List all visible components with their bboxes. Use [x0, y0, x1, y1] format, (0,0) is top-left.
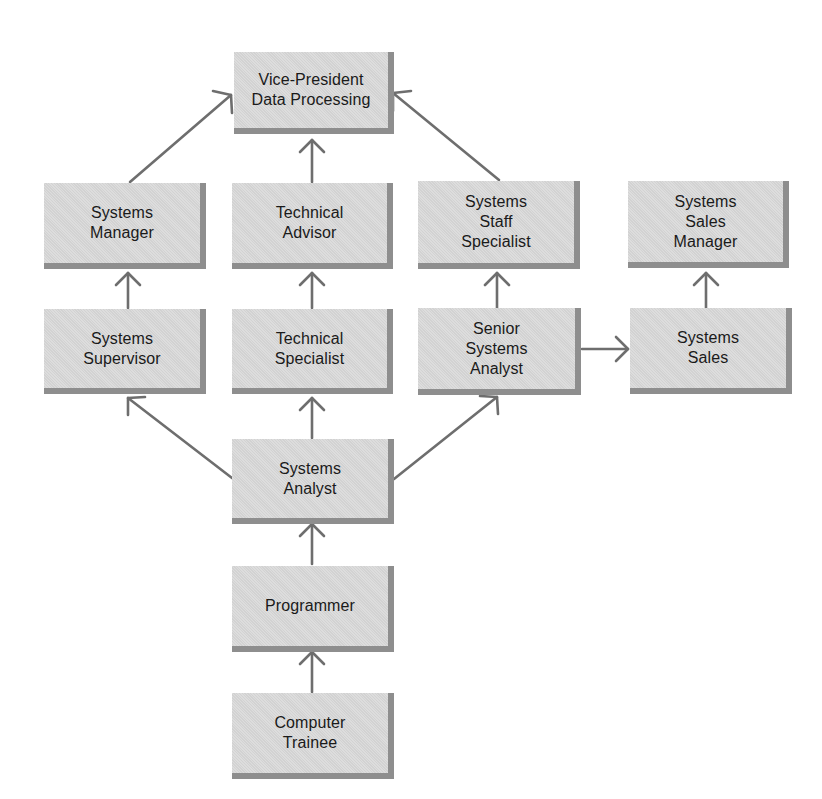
node-vice-president-data-processing: Vice-President Data Processing: [234, 52, 394, 134]
arrow-senior-analyst-to-systems-sales: [582, 337, 628, 361]
node-label: Senior Systems Analyst: [465, 319, 527, 379]
arrow-staff-specialist-to-vp: [393, 91, 499, 180]
node-systems-sales-manager: Systems Sales Manager: [628, 181, 789, 268]
node-computer-trainee: Computer Trainee: [232, 693, 394, 779]
arrow-systems-supervisor-to-systems-manager: [116, 273, 140, 308]
node-label: Systems Analyst: [279, 459, 341, 499]
arrow-technical-specialist-to-technical-advisor: [300, 273, 324, 308]
node-label: Computer Trainee: [274, 713, 345, 753]
node-label: Technical Specialist: [275, 329, 344, 369]
node-systems-supervisor: Systems Supervisor: [44, 309, 206, 394]
node-technical-specialist: Technical Specialist: [232, 309, 393, 394]
node-label: Systems Sales: [677, 328, 739, 368]
node-systems-sales: Systems Sales: [630, 308, 792, 394]
arrow-programmer-to-systems-analyst: [300, 524, 324, 564]
node-technical-advisor: Technical Advisor: [232, 183, 393, 269]
arrow-technical-advisor-to-vp: [300, 140, 324, 182]
node-programmer: Programmer: [232, 566, 394, 652]
node-label: Systems Manager: [90, 203, 154, 243]
arrow-systems-manager-to-vp: [130, 91, 232, 182]
arrow-senior-analyst-to-staff-specialist: [485, 273, 509, 308]
node-label: Vice-President Data Processing: [252, 70, 371, 110]
node-label: Systems Supervisor: [83, 329, 160, 369]
node-systems-analyst: Systems Analyst: [232, 439, 394, 524]
arrow-systems-analyst-to-senior-systems-analyst: [394, 396, 498, 479]
career-path-diagram: Vice-President Data Processing Systems M…: [0, 0, 822, 799]
arrow-systems-analyst-to-technical-specialist: [300, 398, 324, 438]
node-systems-manager: Systems Manager: [44, 183, 206, 269]
node-systems-staff-specialist: Systems Staff Specialist: [418, 181, 580, 269]
arrow-trainee-to-programmer: [300, 652, 324, 692]
node-label: Systems Sales Manager: [674, 192, 738, 252]
node-label: Technical Advisor: [276, 203, 344, 243]
arrow-systems-analyst-to-systems-supervisor: [128, 397, 232, 478]
connector-layer: [0, 0, 822, 799]
node-senior-systems-analyst: Senior Systems Analyst: [418, 308, 581, 395]
node-label: Systems Staff Specialist: [461, 192, 530, 252]
node-label: Programmer: [265, 596, 355, 616]
arrow-systems-sales-to-sales-manager: [694, 273, 718, 308]
